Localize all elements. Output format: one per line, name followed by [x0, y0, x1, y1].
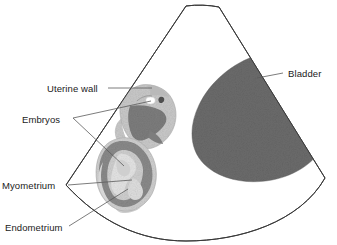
label-bladder: Bladder: [288, 68, 321, 79]
label-myometrium: Myometrium: [2, 180, 55, 191]
label-endometrium: Endometrium: [5, 222, 63, 233]
upper-embryo: [146, 97, 155, 104]
label-uterine-wall: Uterine wall: [47, 83, 98, 94]
label-embryos: Embryos: [22, 114, 60, 125]
